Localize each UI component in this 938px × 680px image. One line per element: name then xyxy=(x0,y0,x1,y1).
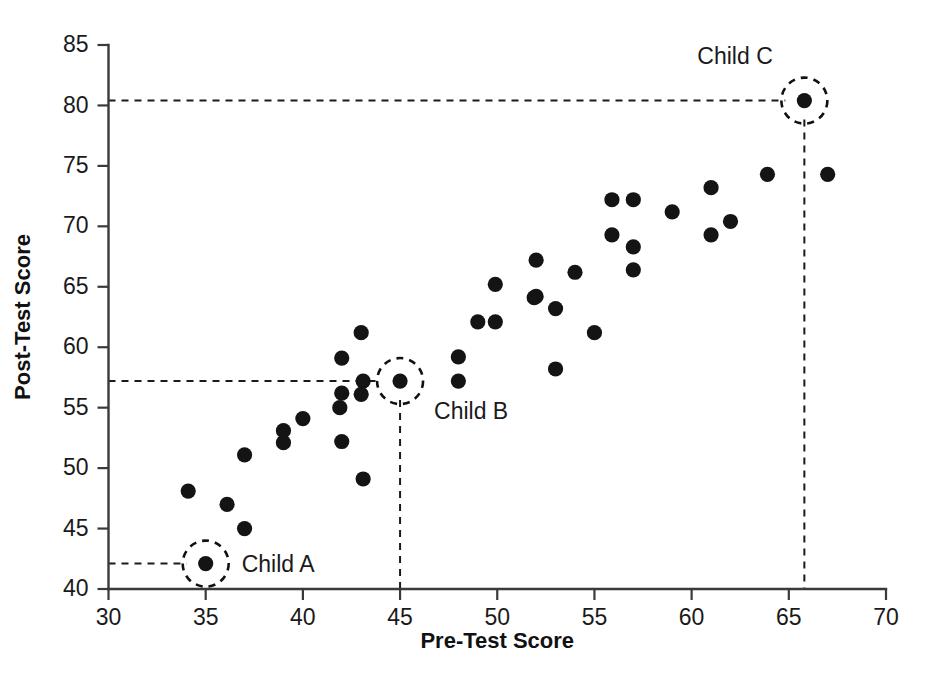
y-tick-label: 40 xyxy=(63,575,89,601)
scatter-plot-figure: 40455055606570758085303540455055606570 C… xyxy=(0,0,938,680)
data-point xyxy=(237,521,252,536)
x-axis-title: Pre-Test Score xyxy=(420,628,574,653)
data-point xyxy=(548,301,563,316)
data-point xyxy=(237,447,252,462)
x-tick-label: 65 xyxy=(776,604,802,630)
data-point xyxy=(797,93,812,108)
data-point xyxy=(567,265,582,280)
annotation-label: Child B xyxy=(434,398,508,424)
y-axis-title: Post-Test Score xyxy=(10,234,35,400)
y-tick-label: 45 xyxy=(63,515,89,541)
data-point xyxy=(548,361,563,376)
data-point xyxy=(354,325,369,340)
data-point xyxy=(470,314,485,329)
guide-lines-layer xyxy=(109,101,805,589)
data-point xyxy=(334,351,349,366)
data-point xyxy=(529,289,544,304)
data-point xyxy=(219,497,234,512)
data-point xyxy=(626,192,641,207)
data-point xyxy=(604,192,619,207)
x-tick-label: 35 xyxy=(193,604,219,630)
data-point xyxy=(276,435,291,450)
data-point xyxy=(332,400,347,415)
y-tick-label: 75 xyxy=(63,152,89,178)
plot-canvas: 40455055606570758085303540455055606570 C… xyxy=(0,0,938,680)
data-point xyxy=(181,483,196,498)
y-tick-label: 85 xyxy=(63,31,89,57)
data-point xyxy=(356,373,371,388)
data-point xyxy=(354,387,369,402)
data-point xyxy=(604,227,619,242)
annotations-layer: Child AChild BChild C xyxy=(183,43,828,587)
data-point xyxy=(587,325,602,340)
y-tick-label: 70 xyxy=(63,212,89,238)
axis-ticks-layer: 40455055606570758085303540455055606570 xyxy=(63,31,899,630)
y-tick-label: 65 xyxy=(63,273,89,299)
y-tick-label: 50 xyxy=(63,454,89,480)
x-tick-label: 60 xyxy=(679,604,705,630)
data-point xyxy=(488,314,503,329)
data-point xyxy=(334,434,349,449)
data-point xyxy=(665,204,680,219)
x-tick-label: 55 xyxy=(582,604,608,630)
data-point xyxy=(198,556,213,571)
x-tick-label: 70 xyxy=(873,604,899,630)
data-point xyxy=(703,227,718,242)
data-point xyxy=(760,167,775,182)
data-points-layer xyxy=(181,93,836,571)
x-tick-label: 30 xyxy=(96,604,122,630)
data-point xyxy=(529,253,544,268)
data-point xyxy=(356,471,371,486)
x-tick-label: 50 xyxy=(484,604,510,630)
data-point xyxy=(626,239,641,254)
data-point xyxy=(703,180,718,195)
x-tick-label: 45 xyxy=(387,604,413,630)
y-tick-label: 60 xyxy=(63,333,89,359)
y-tick-label: 80 xyxy=(63,92,89,118)
data-point xyxy=(392,373,407,388)
data-point xyxy=(451,349,466,364)
data-point xyxy=(488,277,503,292)
data-point xyxy=(820,167,835,182)
data-point xyxy=(334,386,349,401)
data-point xyxy=(626,262,641,277)
x-tick-label: 40 xyxy=(290,604,316,630)
annotation-label: Child C xyxy=(697,43,772,69)
annotation-label: Child A xyxy=(242,551,316,577)
data-point xyxy=(295,411,310,426)
data-point xyxy=(723,214,738,229)
y-tick-label: 55 xyxy=(63,394,89,420)
data-point xyxy=(451,373,466,388)
